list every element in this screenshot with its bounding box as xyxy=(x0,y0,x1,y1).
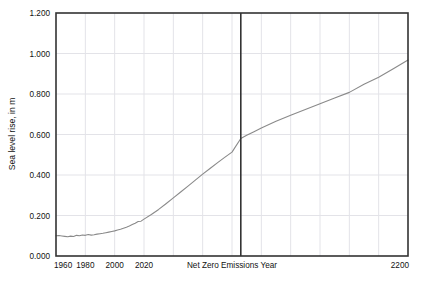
y-axis-title: Sea level rise, in m xyxy=(7,98,17,171)
y-axis-tick-labels: 0.0000.2000.4000.6000.8001.0001.200 xyxy=(30,9,51,261)
y-tick-label: 0.800 xyxy=(30,90,51,99)
x-tick-label: 1960 xyxy=(54,261,73,270)
x-tick-label: 2200 xyxy=(391,261,410,270)
x-tick-label: 2020 xyxy=(135,261,154,270)
y-tick-label: 1.000 xyxy=(30,50,51,59)
y-tick-label: 1.200 xyxy=(30,9,51,18)
y-tick-label: 0.600 xyxy=(30,131,51,140)
net-zero-emissions-year-label: Net Zero Emissions Year xyxy=(187,261,277,270)
x-tick-label: 1980 xyxy=(76,261,95,270)
x-tick-label: 2000 xyxy=(106,261,125,270)
y-tick-label: 0.400 xyxy=(30,171,51,180)
chart-canvas: 0.0000.2000.4000.6000.8001.0001.200 1960… xyxy=(0,0,425,285)
y-tick-label: 0.200 xyxy=(30,212,51,221)
y-tick-label: 0.000 xyxy=(30,252,51,261)
sea-level-rise-chart-figure: 0.0000.2000.4000.6000.8001.0001.200 1960… xyxy=(0,0,425,285)
